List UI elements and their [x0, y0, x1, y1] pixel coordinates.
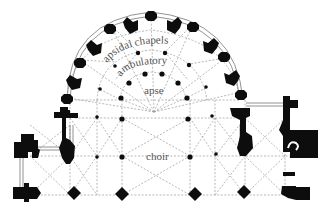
label-apse: apse [144, 84, 164, 96]
choir-piers [67, 185, 251, 201]
label-choir: choir [146, 150, 169, 162]
cathedral-floor-plan: apsidal chapels ambulatory apse choir [0, 0, 332, 220]
left-transept-piers [13, 107, 78, 202]
